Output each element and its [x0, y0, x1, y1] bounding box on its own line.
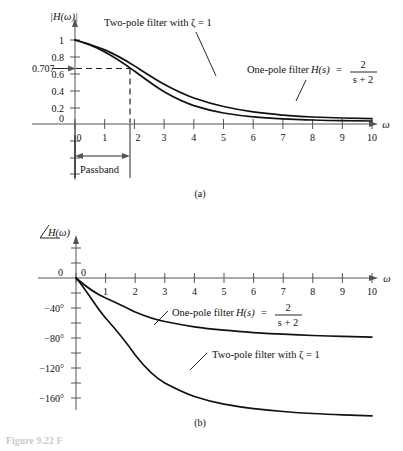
phase-annot-one-pole: One-pole filter H(s) = 2 s + 2	[172, 302, 302, 328]
phase-annot-one-pole-numerator: 2	[285, 302, 290, 313]
phase-curve-two-pole	[76, 278, 372, 416]
magnitude-plot: 1 0.8 0.6 0.4 0.2 0 0.707 |H(ω)|	[0, 0, 403, 215]
phase-y-axis-label-group: H(ω)	[40, 225, 70, 239]
phase-ytick-n120: −120°	[39, 363, 64, 374]
phase-xtick-4: 4	[192, 286, 197, 297]
magnitude-xtick-1: 1	[102, 132, 107, 143]
magnitude-annot-one-pole-prefix: One-pole filter	[247, 64, 310, 75]
phase-ytick-n160: −160°	[39, 393, 64, 404]
magnitude-passband-label: Passband	[80, 164, 120, 175]
magnitude-xtick-5: 5	[221, 132, 226, 143]
magnitude-curve-one-pole	[75, 40, 372, 119]
magnitude-ytick-0p8: 0.8	[52, 52, 65, 63]
magnitude-annot-one-pole: One-pole filter H(s) = 2 s + 2	[247, 59, 377, 85]
phase-y-axis-label: H(ω)	[47, 227, 70, 239]
phase-leader-two-pole	[190, 353, 207, 370]
magnitude-curve-two-pole	[75, 40, 372, 121]
magnitude-ytick-1: 1	[59, 35, 64, 46]
phase-annot-two-pole: Two-pole filter with ζ = 1	[212, 349, 320, 361]
phase-xtick-7: 7	[281, 286, 286, 297]
phase-annot-one-pole-denominator: s + 2	[278, 317, 299, 328]
magnitude-x-axis-label: ω	[382, 119, 389, 130]
magnitude-leader-one-pole	[296, 80, 306, 101]
phase-xtick-10: 10	[367, 286, 377, 297]
magnitude-xtick-0: 0	[77, 132, 82, 143]
phase-ytick-0: 0	[58, 267, 63, 278]
phase-xtick-8: 8	[310, 286, 315, 297]
magnitude-xtick-10: 10	[367, 132, 377, 143]
magnitude-x-axis	[32, 121, 378, 127]
phase-x-axis-label: ω	[383, 273, 390, 284]
phase-leader-one-pole	[154, 311, 168, 325]
magnitude-xtick-6: 6	[251, 132, 256, 143]
phase-xtick-1: 1	[103, 286, 108, 297]
magnitude-cutoff-label: 0.707	[32, 63, 55, 74]
magnitude-annot-one-pole-numerator: 2	[360, 59, 365, 70]
magnitude-xtick-4: 4	[191, 132, 196, 143]
phase-annot-one-pole-H: H(s)	[235, 307, 255, 319]
phase-ytick-n80: −80°	[44, 333, 64, 344]
panel-a-label: (a)	[194, 188, 205, 200]
magnitude-xtick-3: 3	[162, 132, 167, 143]
phase-annot-one-pole-eq: =	[261, 307, 267, 318]
phase-x-axis	[38, 275, 378, 281]
phase-xtick-6: 6	[251, 286, 256, 297]
phase-plot: 0 −40° −80° −120° −160° 0 H(ω) 1	[0, 215, 403, 451]
magnitude-y-axis-label: |H(ω)|	[50, 11, 78, 23]
figure-root: 1 0.8 0.6 0.4 0.2 0 0.707 |H(ω)|	[0, 0, 403, 451]
phase-ytick-n40: −40°	[44, 303, 64, 314]
magnitude-ytick-0: 0	[59, 113, 64, 124]
phase-origin-label: 0	[81, 267, 86, 278]
phase-annot-one-pole-prefix: One-pole filter	[172, 307, 235, 318]
phase-xtick-9: 9	[340, 286, 345, 297]
figure-caption-partial: Figure 9.22 F	[6, 436, 63, 446]
magnitude-annot-one-pole-H: H(s)	[310, 64, 330, 76]
magnitude-xtick-8: 8	[310, 132, 315, 143]
magnitude-annot-one-pole-denominator: s + 2	[353, 74, 374, 85]
magnitude-cutoff-guides	[76, 69, 130, 124]
magnitude-leader-two-pole	[196, 32, 216, 76]
phase-xtick-3: 3	[162, 286, 167, 297]
panel-b-label: (b)	[194, 417, 206, 429]
magnitude-ytick-0p4: 0.4	[52, 86, 65, 97]
magnitude-annot-one-pole-eq: =	[336, 64, 342, 75]
magnitude-xtick-2: 2	[136, 132, 141, 143]
phase-xtick-5: 5	[222, 286, 227, 297]
magnitude-xtick-7: 7	[280, 132, 285, 143]
magnitude-xtick-9: 9	[340, 132, 345, 143]
magnitude-annot-two-pole: Two-pole filter with ζ = 1	[104, 17, 212, 29]
phase-xtick-2: 2	[133, 286, 138, 297]
